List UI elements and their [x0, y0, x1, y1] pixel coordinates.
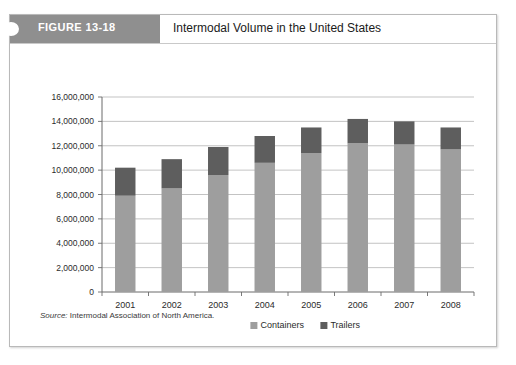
x-axis-tick-label: 2007	[394, 300, 414, 310]
legend-swatch	[250, 322, 257, 329]
band-notch-decoration	[3, 22, 19, 36]
source-text: Intermodal Association of North America.	[70, 311, 215, 320]
source-prefix: Source:	[40, 311, 68, 320]
bar-segment	[394, 121, 414, 144]
y-axis-tick-label: 2,000,000	[56, 263, 94, 273]
y-axis-tick-label: 6,000,000	[56, 214, 94, 224]
bar-segment	[301, 153, 321, 292]
x-axis-tick-label: 2008	[441, 300, 461, 310]
y-axis-tick-label: 4,000,000	[56, 238, 94, 248]
bar-segment	[348, 119, 368, 143]
figure-header: FIGURE 13-18 Intermodal Volume in the Un…	[10, 15, 496, 43]
figure-number-label: FIGURE 13-18	[38, 21, 116, 33]
bar-segment	[115, 168, 135, 196]
bar-segment	[162, 159, 182, 188]
figure-card: FIGURE 13-18 Intermodal Volume in the Un…	[9, 14, 497, 347]
bar-segment	[255, 136, 275, 163]
source-note: Source: Intermodal Association of North …	[40, 311, 214, 320]
x-axis-tick-label: 2001	[115, 300, 135, 310]
bar-segment	[255, 163, 275, 292]
y-axis-tick-label: 10,000,000	[51, 165, 94, 175]
legend-label: Trailers	[330, 320, 360, 330]
y-axis-tick-label: 16,000,000	[51, 92, 94, 102]
figure-root: FIGURE 13-18 Intermodal Volume in the Un…	[0, 0, 516, 365]
x-axis-tick-label: 2003	[208, 300, 228, 310]
x-axis-tick-label: 2005	[301, 300, 321, 310]
y-axis-tick-label: 14,000,000	[51, 116, 94, 126]
x-axis-tick-label: 2006	[348, 300, 368, 310]
legend-swatch	[320, 322, 327, 329]
figure-title: Intermodal Volume in the United States	[173, 21, 381, 35]
bar-segment	[162, 188, 182, 292]
bar-segment	[208, 147, 228, 175]
bar-segment	[208, 175, 228, 292]
bar-segment	[441, 127, 461, 149]
y-axis-tick-label: 12,000,000	[51, 141, 94, 151]
bar-segment	[348, 143, 368, 292]
y-axis-tick-label: 8,000,000	[56, 190, 94, 200]
bar-segment	[394, 145, 414, 292]
chart-area: 02,000,0004,000,0006,000,0008,000,00010,…	[10, 44, 496, 346]
bar-chart: 02,000,0004,000,0006,000,0008,000,00010,…	[10, 44, 496, 347]
bar-segment	[441, 149, 461, 292]
y-axis-tick-label: 0	[89, 287, 94, 297]
bar-segment	[115, 196, 135, 292]
x-axis-tick-label: 2004	[255, 300, 275, 310]
x-axis-tick-label: 2002	[162, 300, 182, 310]
bar-segment	[301, 127, 321, 153]
figure-number-band: FIGURE 13-18	[10, 15, 160, 43]
legend-label: Containers	[260, 320, 304, 330]
